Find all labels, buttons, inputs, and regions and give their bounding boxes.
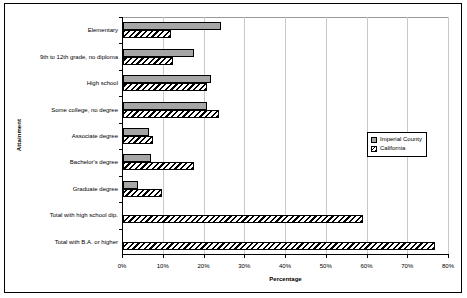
y-tick: [119, 123, 122, 124]
x-tick: [448, 255, 449, 258]
legend-item[interactable]: Imperial County: [371, 135, 422, 144]
chart-frame: Attainment 0%10%20%30%40%50%60%70%80% El…: [4, 3, 462, 293]
bar-california: [123, 57, 173, 65]
category-label: Total with high school dip.: [0, 212, 118, 218]
x-tick-label: 80%: [442, 263, 454, 269]
x-tick: [244, 255, 245, 258]
y-tick: [119, 43, 122, 44]
category-label: 9th to 12th grade, no diploma: [0, 54, 118, 60]
y-tick: [119, 202, 122, 203]
x-tick-label: 50%: [320, 263, 332, 269]
bar-imperial-county: [123, 22, 221, 30]
bar-california: [123, 136, 153, 144]
y-tick: [119, 149, 122, 150]
bar-california: [123, 30, 171, 38]
bar-california: [123, 110, 219, 118]
category-label: Some college, no degree: [0, 107, 118, 113]
category-label: Associate degree: [0, 133, 118, 139]
bar-california: [123, 189, 162, 197]
gray-square-icon: [371, 137, 377, 143]
x-tick: [285, 255, 286, 258]
x-tick: [326, 255, 327, 258]
x-tick-label: 0%: [118, 263, 127, 269]
category-label: High school: [0, 80, 118, 86]
x-tick: [163, 255, 164, 258]
category-label: Bachelor's degree: [0, 159, 118, 165]
y-tick: [119, 70, 122, 71]
bar-imperial-county: [123, 128, 149, 136]
y-tick: [119, 96, 122, 97]
bar-imperial-county: [123, 75, 211, 83]
x-tick: [204, 255, 205, 258]
legend-item[interactable]: California: [371, 144, 422, 153]
x-tick-label: 60%: [360, 263, 372, 269]
category-label: Graduate degree: [0, 186, 118, 192]
x-tick: [367, 255, 368, 258]
x-tick-label: 70%: [401, 263, 413, 269]
legend-item-label: California: [380, 144, 405, 153]
x-tick: [407, 255, 408, 258]
x-axis-title: Percentage: [122, 276, 449, 282]
legend-item-label: Imperial County: [380, 135, 422, 144]
bar-california: [123, 83, 207, 91]
bar-california: [123, 162, 194, 170]
legend: Imperial CountyCalifornia: [367, 132, 427, 157]
bar-imperial-county: [123, 154, 151, 162]
bar-imperial-county: [123, 102, 207, 110]
gridline: [448, 17, 449, 254]
category-label: Total with B.A. or higher: [0, 239, 118, 245]
y-tick: [119, 176, 122, 177]
x-tick-label: 10%: [157, 263, 169, 269]
x-tick-label: 30%: [238, 263, 250, 269]
x-tick-label: 40%: [279, 263, 291, 269]
bar-california: [123, 242, 435, 250]
y-tick: [119, 229, 122, 230]
x-tick-label: 20%: [197, 263, 209, 269]
bar-imperial-county: [123, 49, 194, 57]
bar-imperial-county: [123, 181, 138, 189]
hatched-square-icon: [371, 146, 377, 152]
category-label: Elementary: [0, 27, 118, 33]
x-tick: [122, 255, 123, 258]
bar-california: [123, 215, 363, 223]
y-tick: [119, 17, 122, 18]
